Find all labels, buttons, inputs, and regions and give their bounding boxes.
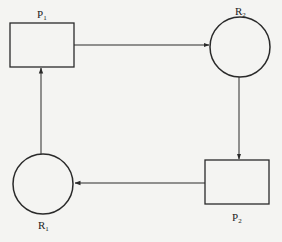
label-r1: R1 (38, 219, 49, 233)
label-r2: R2 (235, 5, 246, 19)
node-r2: R2 (210, 5, 270, 77)
label-p1: P1 (37, 8, 47, 22)
node-p1: P1 (10, 8, 74, 67)
process-box-p2 (205, 160, 269, 204)
resource-circle-r1 (13, 154, 73, 214)
resource-allocation-diagram: P1 R2 P2 R1 (0, 0, 282, 242)
label-p2: P2 (232, 211, 242, 225)
resource-circle-r2 (210, 17, 270, 77)
process-box-p1 (10, 23, 74, 67)
node-r1: R1 (13, 154, 73, 233)
node-p2: P2 (205, 160, 269, 225)
